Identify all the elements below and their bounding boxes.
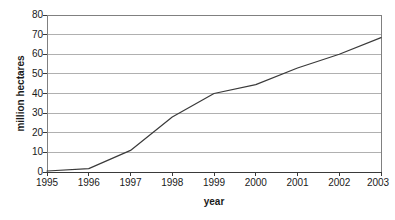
x-axis-title: year bbox=[47, 196, 381, 207]
x-tick-label-1999: 1999 bbox=[194, 177, 234, 189]
x-tick-label-2000: 2000 bbox=[236, 177, 276, 189]
y-axis-ticks bbox=[43, 15, 47, 172]
x-tick-label-1996: 1996 bbox=[69, 177, 109, 189]
x-tick-label-1997: 1997 bbox=[111, 177, 151, 189]
x-tick-label-2002: 2002 bbox=[319, 177, 359, 189]
y-axis-title: million hectares bbox=[14, 15, 28, 172]
x-tick-label-1998: 1998 bbox=[152, 177, 192, 189]
x-axis-ticks bbox=[47, 172, 381, 176]
x-axis-tick-labels: 1995 1996 1997 1998 1999 2000 2001 2002 … bbox=[0, 177, 395, 191]
x-tick-label-2001: 2001 bbox=[278, 177, 318, 189]
x-tick-label-2003: 2003 bbox=[358, 177, 395, 189]
x-tick-label-1995: 1995 bbox=[27, 177, 67, 189]
line-chart: 80 70 60 50 40 30 20 10 0 1995 1996 1997… bbox=[0, 0, 395, 220]
